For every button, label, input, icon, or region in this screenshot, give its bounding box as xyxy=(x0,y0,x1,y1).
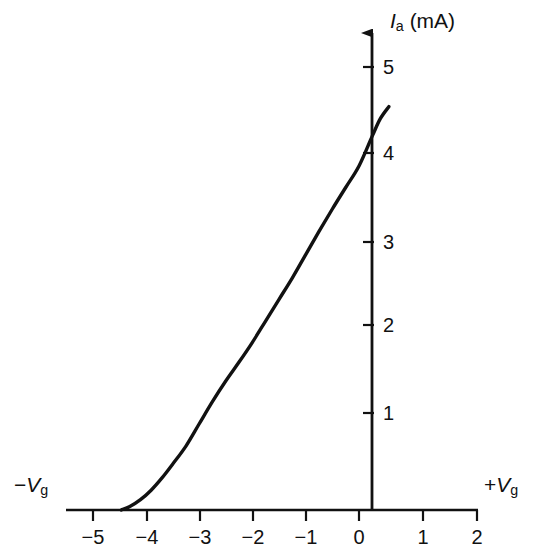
x-tick-label: 0 xyxy=(339,527,379,547)
minus-sign: − xyxy=(14,473,26,496)
x-tick-label: 1 xyxy=(403,527,443,547)
y-axis-title: Ia (mA) xyxy=(390,10,455,33)
y-tick-label: 2 xyxy=(383,315,394,335)
y-tick-label: 4 xyxy=(383,143,394,163)
x-axis-title-positive: +Vg xyxy=(484,474,518,497)
plus-sign: + xyxy=(484,473,496,496)
data-curve-anode-characteristic xyxy=(121,107,389,510)
chart-canvas xyxy=(0,0,537,560)
x-axis-symbol-positive: V xyxy=(496,473,510,496)
x-axis-subscript-negative: g xyxy=(40,482,48,498)
x-axis-ticks xyxy=(93,510,477,521)
y-tick-label: 3 xyxy=(383,232,394,252)
x-tick-label: −4 xyxy=(127,527,167,547)
x-tick-label: −2 xyxy=(233,527,273,547)
x-tick-label: −1 xyxy=(286,527,326,547)
x-axis-subscript-positive: g xyxy=(510,482,518,498)
x-axis-symbol-negative: V xyxy=(26,473,40,496)
x-tick-label: −5 xyxy=(73,527,113,547)
x-axis-title-negative: −Vg xyxy=(14,474,48,497)
y-axis-units: (mA) xyxy=(410,9,456,32)
chart-figure: −5 −4 −3 −2 −1 0 1 2 5 4 3 2 1 Ia (mA) −… xyxy=(0,0,537,560)
x-tick-label: −3 xyxy=(180,527,220,547)
x-tick-label: 2 xyxy=(457,527,497,547)
y-tick-label: 5 xyxy=(383,57,394,77)
y-tick-label: 1 xyxy=(383,403,394,423)
y-axis-subscript: a xyxy=(396,18,404,34)
